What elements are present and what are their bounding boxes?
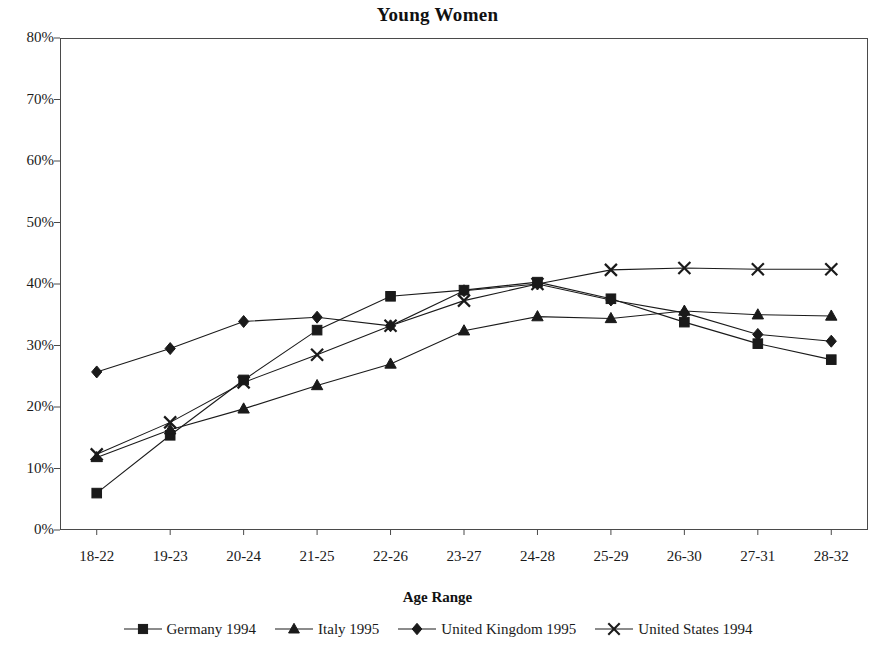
x-axis-tick-label: 23-27 — [424, 548, 504, 565]
chart-title: Young Women — [0, 4, 875, 26]
y-axis-tick-label: 30% — [4, 338, 54, 353]
legend-item[interactable]: United States 1994 — [594, 620, 752, 638]
x-axis-title: Age Range — [0, 589, 875, 606]
y-axis-tick: 40% — [0, 276, 54, 291]
y-axis-tick: 10% — [0, 461, 54, 476]
x-axis-tick-label: 21-25 — [277, 548, 357, 565]
y-axis-tick-label: 40% — [4, 276, 54, 291]
legend-item-label: United Kingdom 1995 — [441, 621, 576, 638]
legend-item[interactable]: United Kingdom 1995 — [397, 620, 576, 638]
legend-marker-diamond-icon — [397, 620, 437, 638]
y-axis-tick-label: 10% — [4, 461, 54, 476]
y-axis-tick-label: 20% — [4, 399, 54, 414]
x-axis-tick-label: 26-30 — [644, 548, 724, 565]
legend-item[interactable]: Germany 1994 — [123, 620, 257, 638]
plot-area — [60, 38, 868, 530]
y-axis-tick: 70% — [0, 92, 54, 107]
legend-marker-square-icon — [123, 620, 163, 638]
legend-item-label: United States 1994 — [638, 621, 752, 638]
y-axis-tick: 30% — [0, 338, 54, 353]
chart-legend: Germany 1994Italy 1995United Kingdom 199… — [0, 620, 875, 638]
data-point-marker-diamond — [412, 623, 422, 634]
x-axis-tick-label: 22-26 — [351, 548, 431, 565]
y-axis-tick-label: 80% — [4, 30, 54, 45]
y-axis-tick-label: 0% — [4, 522, 54, 537]
legend-marker-x-icon — [594, 620, 634, 638]
x-axis-tick-label: 24-28 — [497, 548, 577, 565]
legend-item-label: Italy 1995 — [318, 621, 379, 638]
data-point-marker-triangle — [289, 623, 300, 633]
x-axis-tick-label: 20-24 — [204, 548, 284, 565]
x-axis-tick-label: 27-31 — [718, 548, 798, 565]
x-axis-tick-label: 19-23 — [130, 548, 210, 565]
x-axis-tick-label: 25-29 — [571, 548, 651, 565]
legend-item[interactable]: Italy 1995 — [274, 620, 379, 638]
y-axis-tick: 50% — [0, 215, 54, 230]
x-axis-tick-label: 28-32 — [791, 548, 871, 565]
y-axis-tick: 0% — [0, 522, 54, 537]
y-axis-tick-label: 70% — [4, 92, 54, 107]
x-axis-tick-label: 18-22 — [57, 548, 137, 565]
chart-page: Young Women 0%10%20%30%40%50%60%70%80% 1… — [0, 0, 875, 659]
y-axis-tick: 80% — [0, 30, 54, 45]
y-axis-tick: 20% — [0, 399, 54, 414]
data-point-marker-square — [138, 624, 147, 633]
y-axis-tick-label: 50% — [4, 215, 54, 230]
y-axis-tick-label: 60% — [4, 153, 54, 168]
y-axis-tick: 60% — [0, 153, 54, 168]
legend-marker-triangle-icon — [274, 620, 314, 638]
legend-item-label: Germany 1994 — [167, 621, 257, 638]
